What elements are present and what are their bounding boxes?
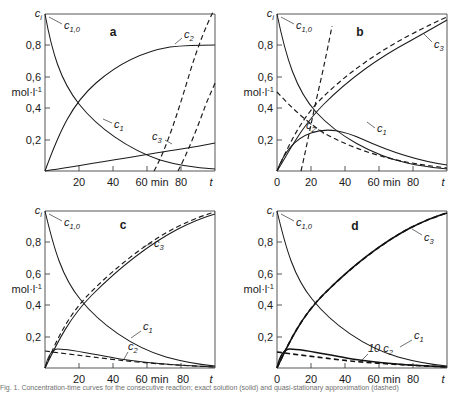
panel-a: 0,2 0,4 0,6 0,8 20 40 60 min 80 t ci mol… — [0, 0, 232, 197]
y-tick-label: 0,8 — [258, 236, 273, 248]
svg-text:c1,0: c1,0 — [64, 216, 81, 231]
svg-text:c2: c2 — [306, 119, 317, 134]
y-tick-label: 0,2 — [258, 134, 273, 146]
svg-text:c1: c1 — [377, 122, 387, 137]
y-tick-label: 0,8 — [26, 39, 41, 51]
svg-text:c1: c1 — [143, 320, 153, 335]
x-tick-label: 80 — [175, 176, 187, 188]
panel-b-x-ticks: 0 20 40 60 min 80 t — [274, 166, 446, 188]
panel-d-plot: 0,2 0,4 0,6 0,8 0 20 40 60 min 80 t ci m… — [232, 197, 464, 394]
y-tick-label: 0,8 — [26, 236, 41, 248]
figure-caption: Fig. 1. Concentration-time curves for th… — [0, 381, 464, 394]
x-tick-label: 40 — [107, 176, 119, 188]
y-axis-units: mol·l-1 — [243, 85, 274, 98]
y-tick-label: 0,8 — [258, 39, 273, 51]
y-tick-label: 0,6 — [26, 71, 41, 83]
svg-text:c1,0: c1,0 — [64, 19, 81, 34]
svg-text:c3: c3 — [152, 130, 163, 145]
y-tick-label: 0,6 — [258, 268, 273, 280]
y-tick-label: 0,4 — [26, 102, 41, 114]
x-tick-label: 20 — [73, 176, 85, 188]
y-tick-label: 0,6 — [258, 71, 273, 83]
y-axis-units: mol·l-1 — [11, 282, 42, 295]
panel-a-plot: 0,2 0,4 0,6 0,8 20 40 60 min 80 t ci mol… — [0, 0, 232, 197]
y-axis-symbol: ci — [35, 204, 43, 219]
panel-c-plot: 0,2 0,4 0,6 0,8 20 40 60 min 80 t ci mol… — [0, 197, 232, 394]
curve-c3-d — [277, 213, 447, 368]
curve-c2-dashed-b-a — [178, 83, 215, 171]
y-axis-units: mol·l-1 — [11, 85, 42, 98]
panel-letter-c: c — [120, 218, 127, 232]
x-tick-label: 80 — [407, 176, 419, 188]
svg-text:c3: c3 — [154, 237, 165, 252]
curve-c2-qs-c — [45, 351, 215, 367]
curve-10c2-qs-d — [277, 352, 447, 367]
panel-letter-a: a — [110, 25, 117, 39]
label-c3-d: c3 — [412, 229, 435, 246]
y-tick-label: 0,2 — [26, 331, 41, 343]
panel-a-x-ticks: 20 40 60 min 80 t — [73, 166, 214, 188]
panel-b-plot: 0,2 0,4 0,6 0,8 0 20 40 60 min 80 t ci m… — [232, 0, 464, 197]
x-tick-label: 60 min — [367, 176, 400, 188]
label-c2-c: c2 — [124, 340, 139, 359]
y-axis-units: mol·l-1 — [243, 282, 274, 295]
svg-text:c1: c1 — [114, 118, 124, 133]
y-axis-symbol: ci — [267, 204, 275, 219]
x-axis-symbol: t — [441, 176, 445, 188]
label-c10-c: c1,0 — [49, 214, 81, 231]
curve-10c2-d — [277, 349, 447, 368]
label-c2-b: c2 — [306, 119, 324, 134]
y-tick-label: 0,2 — [26, 134, 41, 146]
svg-text:c1,0: c1,0 — [296, 19, 313, 34]
y-axis-symbol: ci — [267, 7, 275, 22]
curve-c3-a — [45, 45, 215, 171]
svg-text:c3: c3 — [424, 231, 435, 246]
svg-text:10 c2: 10 c2 — [368, 342, 394, 357]
curve-c3-b — [277, 20, 447, 171]
svg-text:c1: c1 — [414, 329, 424, 344]
x-axis-symbol: t — [209, 176, 213, 188]
x-tick-label: 60 min — [135, 176, 168, 188]
curve-c3-qs-d — [277, 213, 447, 368]
label-10c2-d: 10 c2 — [362, 342, 394, 360]
panel-c: 0,2 0,4 0,6 0,8 20 40 60 min 80 t ci mol… — [0, 197, 232, 394]
panel-letter-d: d — [351, 219, 358, 233]
panel-d: 0,2 0,4 0,6 0,8 0 20 40 60 min 80 t ci m… — [232, 197, 464, 394]
svg-text:c1,0: c1,0 — [296, 216, 313, 231]
y-tick-label: 0,6 — [26, 268, 41, 280]
label-c3-b: c3 — [424, 34, 445, 53]
y-tick-label: 0,4 — [26, 299, 41, 311]
label-c1-c: c1 — [131, 320, 153, 338]
label-c10-b: c1,0 — [281, 17, 313, 34]
label-c2-a: c2 — [175, 28, 195, 44]
y-tick-label: 0,4 — [258, 299, 273, 311]
label-c1-b: c1 — [367, 122, 387, 137]
y-tick-label: 0,4 — [258, 102, 273, 114]
y-tick-label: 0,2 — [258, 331, 273, 343]
svg-text:c3: c3 — [434, 38, 445, 53]
x-tick-label: 0 — [274, 176, 280, 188]
panel-b: 0,2 0,4 0,6 0,8 0 20 40 60 min 80 t ci m… — [232, 0, 464, 197]
label-c10-a: c1,0 — [49, 17, 81, 34]
label-c10-d: c1,0 — [281, 214, 313, 231]
svg-text:c2: c2 — [128, 340, 139, 355]
figure-root: 0,2 0,4 0,6 0,8 20 40 60 min 80 t ci mol… — [0, 0, 464, 394]
x-tick-label: 20 — [305, 176, 317, 188]
label-c1-d: c1 — [400, 329, 424, 347]
svg-text:c2: c2 — [184, 28, 195, 43]
y-axis-symbol: ci — [35, 7, 43, 22]
x-tick-label: 40 — [339, 176, 351, 188]
panel-letter-b: b — [356, 25, 363, 39]
